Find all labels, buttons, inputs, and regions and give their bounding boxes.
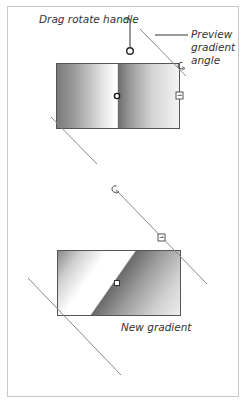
gradient-rectangle-before[interactable]	[56, 63, 180, 129]
new-gradient-caption: New gradient	[121, 321, 191, 334]
drag-rotate-handle-label: Drag rotate handle	[39, 13, 139, 26]
preview-gradient-angle-label: Preview gradient angle	[191, 28, 237, 67]
gradient-rectangle-after[interactable]	[57, 250, 181, 316]
